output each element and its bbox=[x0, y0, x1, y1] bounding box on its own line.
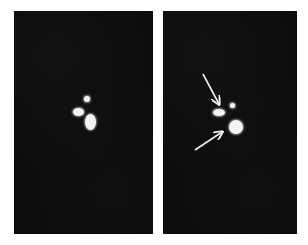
image-panel-right bbox=[163, 11, 297, 234]
arrow-icon bbox=[203, 74, 219, 104]
spot-large bbox=[85, 114, 96, 130]
spot-small bbox=[84, 96, 90, 102]
annotation-arrows bbox=[163, 11, 297, 234]
spot-oval bbox=[73, 108, 84, 116]
arrow-icon bbox=[195, 132, 222, 150]
image-panel-left bbox=[14, 11, 153, 234]
